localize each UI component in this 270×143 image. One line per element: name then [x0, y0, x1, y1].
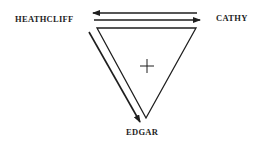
arrow-heathcliff-to-edgar	[89, 32, 140, 122]
node-cathy: CATHY	[216, 13, 248, 23]
diagram-canvas: HEATHCLIFF CATHY EDGAR	[0, 0, 270, 143]
plus-icon	[140, 59, 154, 73]
node-edgar: EDGAR	[126, 127, 158, 137]
node-heathcliff: HEATHCLIFF	[15, 14, 74, 24]
